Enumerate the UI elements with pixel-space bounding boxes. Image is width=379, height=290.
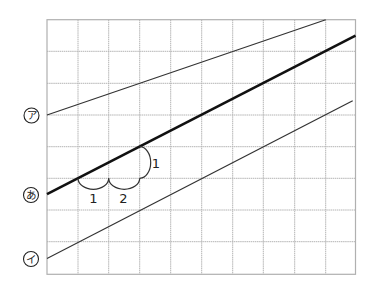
label-i: イ (24, 252, 39, 267)
arc-label-v: 1 (152, 156, 160, 171)
label-main-text: あ (26, 189, 36, 201)
diagram-canvas: 1 2 1 ア あ イ (0, 0, 379, 290)
arc-horizontal-1 (78, 178, 109, 189)
label-i-text: イ (26, 253, 36, 265)
arc-vertical (140, 147, 151, 179)
arc-label-h1: 1 (89, 191, 97, 206)
grid (47, 20, 356, 275)
label-a-text: ア (27, 109, 37, 121)
line-a (47, 20, 326, 115)
arc-horizontal-2 (109, 178, 140, 189)
arc-label-h2: 2 (119, 191, 127, 206)
line-i (47, 101, 353, 259)
diagram-stage: 1 2 1 ア あ イ (0, 0, 379, 290)
label-a: ア (24, 108, 39, 123)
label-main: あ (24, 188, 39, 203)
